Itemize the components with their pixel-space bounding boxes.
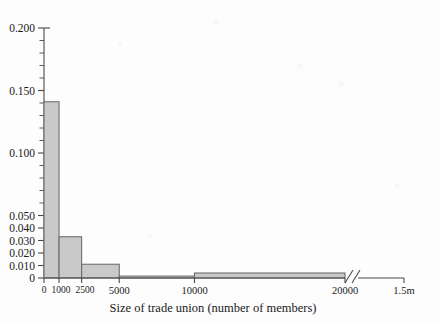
bar-1000-2500	[59, 237, 82, 278]
y-tick-label-0.050: 0.050	[9, 210, 35, 222]
y-tick-label-0.030: 0.030	[9, 235, 35, 247]
x-tick-label-0: 0	[42, 285, 47, 295]
y-tick-label-0.150: 0.150	[9, 85, 35, 97]
y-tick-label-0.100: 0.100	[9, 147, 35, 159]
x-tick-label-20000: 20000	[332, 285, 358, 296]
x-tick-label-10000: 10000	[181, 285, 207, 296]
x-tick-label-5000: 5000	[109, 285, 130, 296]
bar-0-1000	[44, 102, 59, 278]
x-tick-label-1.5m: 1.5m	[393, 285, 414, 296]
y-tick-label-0: 0	[29, 272, 35, 284]
x-axis-caption: Size of trade union (number of members)	[110, 301, 317, 315]
x-tick-label-1000: 1000	[52, 285, 71, 295]
y-tick-label-0.040: 0.040	[9, 222, 35, 234]
histogram-figure: 0.200 0.150 0.100 0.050 0.040 0.030 0.02…	[0, 0, 441, 322]
y-tick-label-0.010: 0.010	[9, 260, 35, 272]
bar-10000-20000	[195, 273, 346, 278]
y-tick-label-0.020: 0.020	[9, 247, 35, 259]
y-tick-label-0.200: 0.200	[9, 22, 35, 34]
x-tick-label-2500: 2500	[76, 285, 95, 295]
bar-2500-5000	[82, 264, 120, 278]
